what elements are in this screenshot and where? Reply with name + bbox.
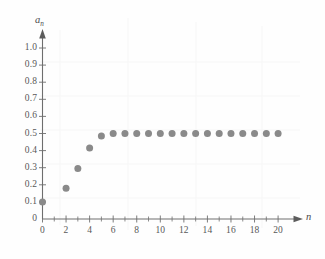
data-point — [192, 130, 199, 137]
y-tick-label: 0 — [6, 213, 37, 223]
x-axis-arrow — [294, 216, 304, 222]
x-tick-label: 4 — [78, 225, 102, 235]
data-point — [275, 130, 282, 137]
figure-container: 00.10.20.30.40.50.60.70.80.91.0 02468101… — [0, 0, 325, 259]
data-point — [121, 130, 128, 137]
y-axis-label: an — [35, 14, 44, 28]
y-axis-arrow — [39, 29, 46, 39]
x-tick-label: 12 — [172, 225, 196, 235]
x-tick-label: 20 — [266, 225, 290, 235]
data-point — [86, 145, 93, 152]
x-tick-label: 10 — [148, 225, 172, 235]
y-axis-label-subscript: n — [40, 20, 44, 28]
data-point — [204, 130, 211, 137]
scatter-plot — [0, 0, 325, 259]
x-tick-label: 0 — [31, 225, 55, 235]
data-point — [169, 130, 176, 137]
y-tick-label: 0.9 — [6, 59, 37, 69]
data-point — [251, 130, 258, 137]
axes-group — [39, 29, 303, 222]
data-point — [216, 130, 223, 137]
x-tick-label: 14 — [195, 225, 219, 235]
data-point — [110, 130, 117, 137]
y-tick-label: 0.7 — [6, 93, 37, 103]
data-points-layer — [39, 130, 282, 205]
data-point — [98, 133, 105, 140]
x-tick-label: 8 — [125, 225, 149, 235]
y-tick-label: 0.8 — [6, 76, 37, 86]
data-point — [74, 165, 81, 172]
data-point — [227, 130, 234, 137]
x-tick-label: 6 — [101, 225, 125, 235]
y-tick-label: 0.4 — [6, 145, 37, 155]
x-tick-label: 16 — [219, 225, 243, 235]
x-axis-label: n — [306, 211, 311, 222]
y-tick-label: 0.2 — [6, 179, 37, 189]
y-tick-label: 0.3 — [6, 162, 37, 172]
data-point — [63, 185, 70, 192]
data-point — [263, 130, 270, 137]
y-tick-label: 0.6 — [6, 110, 37, 120]
data-point — [157, 130, 164, 137]
data-point — [133, 130, 140, 137]
data-point — [180, 130, 187, 137]
y-tick-label: 0.1 — [6, 196, 37, 206]
x-tick-label: 2 — [54, 225, 78, 235]
y-tick-label: 0.5 — [6, 128, 37, 138]
x-tick-label: 18 — [243, 225, 267, 235]
y-tick-label: 1.0 — [6, 42, 37, 52]
data-point — [39, 198, 46, 205]
data-point — [239, 130, 246, 137]
data-point — [145, 130, 152, 137]
